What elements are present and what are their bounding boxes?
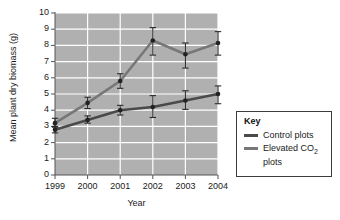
legend-label-elevated-co2-subscript: 2 [314, 148, 318, 155]
legend-label-elevated-co2-prefix: Elevated CO [263, 143, 314, 153]
legend-swatch-elevated-co2-plots [244, 147, 258, 150]
legend-label-elevated-co2-plots: Elevated CO2 plots [263, 143, 325, 167]
legend-item-elevated-co2-plots: Elevated CO2 plots [244, 143, 325, 167]
legend-title: Key [244, 117, 325, 126]
legend-label-elevated-co2-suffix: plots [263, 157, 282, 167]
legend-box: Key Control plots Elevated CO2 plots [236, 111, 332, 177]
legend-label-control-plots: Control plots [263, 130, 314, 140]
legend-swatch-control-plots [244, 134, 258, 137]
x-axis-tick-labels: 199920002001200220032004 [0, 0, 340, 220]
chart-figure: Mean plant dry biomass (g) Year 01234567… [0, 0, 340, 220]
x-axis-tick-label: 2004 [198, 182, 238, 191]
legend-item-control-plots: Control plots [244, 130, 325, 140]
